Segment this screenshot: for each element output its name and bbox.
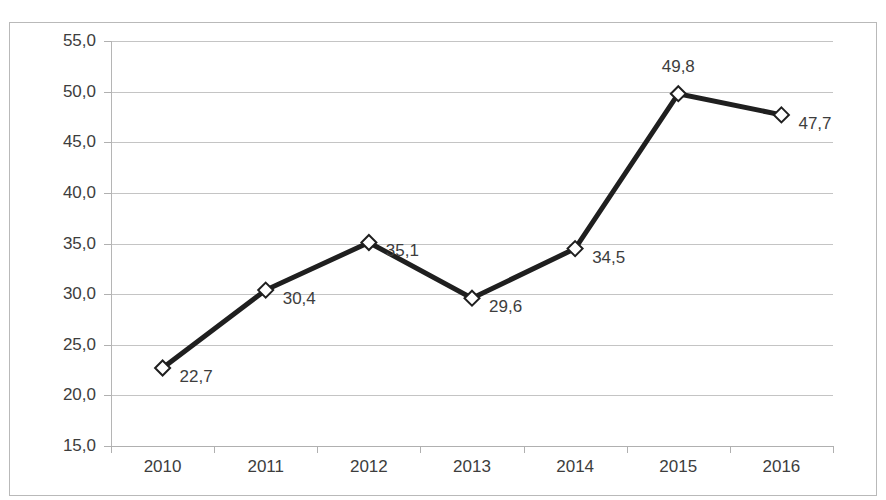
x-axis-tick — [524, 446, 525, 453]
data-point-label: 29,6 — [489, 297, 522, 317]
y-axis-tick — [104, 244, 111, 245]
y-axis-tick — [104, 446, 111, 447]
x-axis-tick — [420, 446, 421, 453]
chart-title-fragment — [130, 0, 140, 4]
y-axis-tick — [104, 294, 111, 295]
y-axis-tick-label: 55,0 — [28, 31, 96, 51]
x-axis-tick — [833, 446, 834, 453]
plot-area — [111, 41, 833, 446]
y-axis-tick-label: 45,0 — [28, 132, 96, 152]
gridline — [111, 244, 833, 245]
data-point-label: 34,5 — [592, 248, 625, 268]
data-point-label: 30,4 — [283, 289, 316, 309]
x-axis-tick-label: 2014 — [556, 457, 594, 477]
data-point-label: 35,1 — [386, 241, 419, 261]
x-axis-tick-label: 2013 — [453, 457, 491, 477]
gridline — [111, 345, 833, 346]
x-axis-tick-label: 2012 — [350, 457, 388, 477]
y-axis-tick — [104, 41, 111, 42]
x-axis-tick — [730, 446, 731, 453]
y-axis-tick — [104, 92, 111, 93]
y-axis-tick — [104, 395, 111, 396]
x-axis-tick-label: 2011 — [247, 457, 284, 477]
y-axis-tick-label: 25,0 — [28, 335, 96, 355]
gridline — [111, 92, 833, 93]
y-axis-tick — [104, 142, 111, 143]
y-axis-tick-label: 15,0 — [28, 436, 96, 456]
chart-container: 55,050,045,040,035,030,025,020,015,0 201… — [0, 0, 886, 500]
x-axis-tick — [627, 446, 628, 453]
x-axis-tick — [317, 446, 318, 453]
data-point-label: 47,7 — [798, 114, 831, 134]
x-axis-tick — [111, 446, 112, 453]
y-axis-labels: 55,050,045,040,035,030,025,020,015,0 — [20, 41, 96, 446]
data-point-label: 49,8 — [662, 57, 695, 77]
y-axis-tick-label: 30,0 — [28, 284, 96, 304]
x-axis-tick-label: 2015 — [659, 457, 697, 477]
x-axis-tick — [214, 446, 215, 453]
x-axis-tick-label: 2010 — [144, 457, 182, 477]
data-point-label: 22,7 — [180, 367, 213, 387]
gridline — [111, 395, 833, 396]
gridline — [111, 446, 833, 447]
gridline — [111, 193, 833, 194]
y-axis-tick-label: 40,0 — [28, 183, 96, 203]
gridline — [111, 142, 833, 143]
y-axis-tick — [104, 345, 111, 346]
x-axis-tick-label: 2016 — [763, 457, 801, 477]
gridline — [111, 294, 833, 295]
gridline — [111, 41, 833, 42]
y-axis-tick — [104, 193, 111, 194]
y-axis-tick-label: 20,0 — [28, 385, 96, 405]
y-axis-tick-label: 35,0 — [28, 234, 96, 254]
y-axis-line — [111, 41, 112, 446]
y-axis-tick-label: 50,0 — [28, 82, 96, 102]
